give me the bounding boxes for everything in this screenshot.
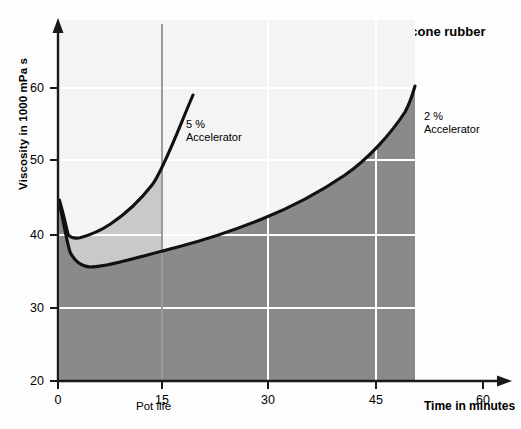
y-tick-label: 60 xyxy=(30,81,44,95)
annotation-5-percent-line1: 5 % xyxy=(186,118,242,131)
pot-life-label: Pot life xyxy=(136,400,171,412)
y-tick-labels: 60 50 40 30 20 xyxy=(30,81,44,388)
chart-container: Viscosity in 1000 mPa s Increase in visc… xyxy=(0,0,521,429)
x-axis-ticks xyxy=(58,381,483,389)
y-tick-label: 40 xyxy=(30,228,44,242)
annotation-2-percent-line1: 2 % xyxy=(424,110,480,123)
x-tick-label: 30 xyxy=(261,393,275,407)
y-tick-label: 30 xyxy=(30,301,44,315)
annotation-5-percent: 5 % Accelerator xyxy=(186,118,242,144)
y-tick-label: 20 xyxy=(30,374,44,388)
x-tick-label: 0 xyxy=(55,393,62,407)
annotation-2-percent-line2: Accelerator xyxy=(424,123,480,136)
y-tick-label: 50 xyxy=(30,153,44,167)
x-axis-arrow xyxy=(497,376,512,387)
x-axis-title: Time in minutes xyxy=(424,399,515,413)
annotation-5-percent-line2: Accelerator xyxy=(186,131,242,144)
x-tick-label: 45 xyxy=(369,393,383,407)
annotation-2-percent: 2 % Accelerator xyxy=(424,110,480,136)
chart-plot: 60 50 40 30 20 0 15 30 45 60 xyxy=(0,0,521,429)
